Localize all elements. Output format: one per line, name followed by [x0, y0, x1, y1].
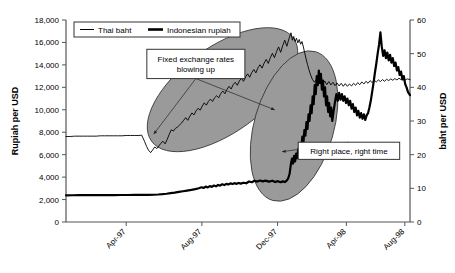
left-axis-title: Rupiah per USD — [10, 86, 20, 155]
left-tick-label: 14,000 — [35, 61, 60, 70]
chart-legend: Thai baht Indonesian rupiah — [74, 22, 240, 37]
legend-label-thai-baht: Thai baht — [98, 26, 132, 35]
left-tick-label: 0 — [55, 218, 60, 227]
left-tick-label: 4,000 — [39, 173, 60, 182]
callout-fixed-rates-text: blowing up — [177, 65, 216, 74]
exchange-rate-line-chart: 02,0004,0006,0008,00010,00012,00014,0001… — [0, 0, 455, 273]
callout-right-place-text: Right place, right time — [310, 147, 388, 156]
right-tick-label: 30 — [417, 117, 426, 126]
right-tick-label: 20 — [417, 151, 426, 160]
right-tick-label: 60 — [417, 16, 426, 25]
left-tick-label: 12,000 — [35, 83, 60, 92]
legend-label-indonesian-rupiah: Indonesian rupiah — [167, 26, 231, 35]
chart-container: 02,0004,0006,0008,00010,00012,00014,0001… — [0, 0, 455, 273]
right-tick-label: 50 — [417, 50, 426, 59]
right-tick-label: 40 — [417, 83, 426, 92]
left-tick-label: 8,000 — [39, 128, 60, 137]
left-tick-label: 2,000 — [39, 196, 60, 205]
callout-fixed-rates-text: Fixed exchange rates — [158, 55, 235, 64]
right-axis-title: baht per USD — [438, 92, 448, 150]
left-tick-label: 16,000 — [35, 38, 60, 47]
left-tick-label: 18,000 — [35, 16, 60, 25]
left-tick-label: 6,000 — [39, 151, 60, 160]
right-tick-label: 0 — [417, 218, 422, 227]
right-tick-label: 10 — [417, 184, 426, 193]
left-tick-label: 10,000 — [35, 106, 60, 115]
